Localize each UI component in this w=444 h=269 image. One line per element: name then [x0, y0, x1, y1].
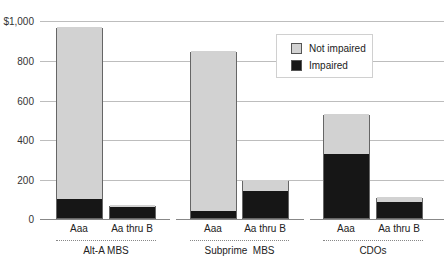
segment-not-impaired	[57, 27, 102, 199]
legend-item-not-impaired: Not impaired	[291, 42, 366, 54]
baseline-alt-a	[40, 219, 170, 220]
group-divider-subprime	[190, 240, 289, 241]
bar-subprime-aaa	[190, 52, 237, 219]
segment-impaired	[377, 202, 422, 218]
legend-item-impaired: Impaired	[291, 59, 348, 71]
segment-not-impaired	[191, 51, 236, 211]
y-tick-label-400: 400	[17, 135, 34, 146]
y-tick-label-200: 200	[17, 175, 34, 186]
bar-cdos-aaa	[323, 115, 370, 219]
legend-label-impaired: Impaired	[309, 60, 348, 71]
y-tick-label-0: 0	[28, 214, 34, 225]
segment-not-impaired	[243, 180, 288, 191]
group-divider-alt-a	[56, 240, 156, 241]
swatch-not-impaired-icon	[291, 43, 302, 54]
legend: Not impaired Impaired	[276, 34, 373, 78]
group-label-alt-a: Alt-A MBS	[56, 245, 156, 256]
group-label-subprime: Subprime MBS	[190, 245, 289, 256]
legend-label-not-impaired: Not impaired	[309, 43, 366, 54]
y-tick-label-600: 600	[17, 96, 34, 107]
baseline-subprime	[176, 219, 304, 220]
bar-alt-a-aa-thru-b	[109, 206, 156, 219]
segment-not-impaired	[324, 114, 369, 154]
segment-impaired	[110, 207, 155, 218]
y-tick-label-800: 800	[17, 56, 34, 67]
group-divider-cdos	[323, 240, 423, 241]
gridline-1000	[40, 21, 444, 22]
x-label-cdos-aa-thru-b: Aa thru B	[364, 223, 434, 234]
x-label-alt-a-aa-thru-b: Aa thru B	[97, 223, 167, 234]
bar-subprime-aa-thru-b	[242, 181, 289, 219]
bar-alt-a-aaa	[56, 28, 103, 219]
bar-cdos-aa-thru-b	[376, 198, 423, 219]
swatch-impaired-icon	[291, 60, 302, 71]
segment-impaired	[243, 191, 288, 218]
group-label-cdos: CDOs	[323, 245, 423, 256]
segment-impaired	[57, 199, 102, 218]
y-tick-label-1000: $1,000	[3, 16, 34, 27]
segment-impaired	[324, 154, 369, 218]
x-label-subprime-aa-thru-b: Aa thru B	[230, 223, 300, 234]
baseline-cdos	[310, 219, 444, 220]
segment-impaired	[191, 211, 236, 218]
